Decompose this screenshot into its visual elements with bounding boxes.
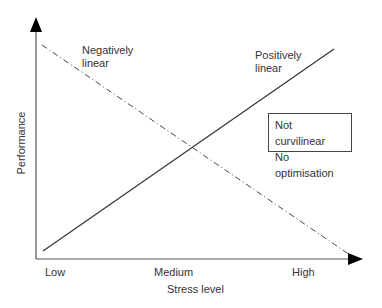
x-axis-arrow-icon [348, 253, 363, 265]
y-axis-arrow-icon [30, 17, 42, 32]
negatively-linear-label-1: Negatively [82, 44, 133, 57]
annotation-box: Not curvilinear No optimisation [268, 113, 352, 152]
annotation-line-2: No optimisation [275, 149, 345, 181]
x-axis-label: Stress level [167, 283, 224, 296]
x-tick-medium: Medium [154, 266, 193, 279]
positively-linear-label-2: linear [255, 62, 282, 75]
x-tick-high: High [292, 266, 315, 279]
annotation-line-1: Not curvilinear [275, 117, 345, 149]
x-tick-low: Low [45, 266, 65, 279]
y-axis-label: Performance [15, 108, 27, 178]
negatively-linear-label-2: linear [82, 57, 109, 70]
positively-linear-label-1: Positively [255, 49, 301, 62]
